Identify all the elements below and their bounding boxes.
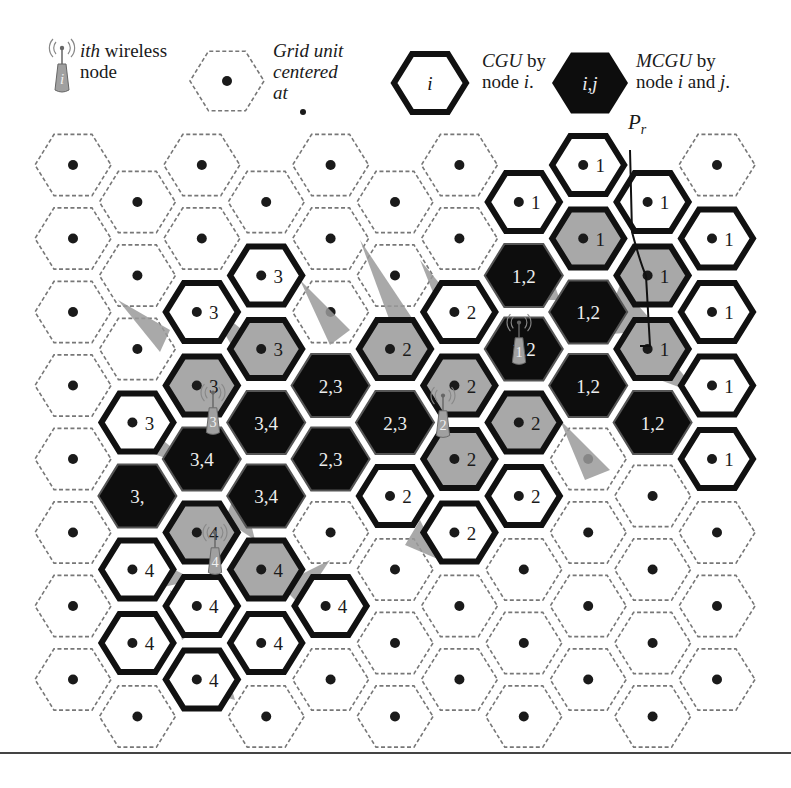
legend-node-label: ith wireless node — [80, 40, 167, 82]
legend-cgu-end: . — [529, 71, 534, 92]
mcgu-label: 1,2 — [576, 302, 600, 323]
grid-center-dot — [192, 307, 202, 317]
cgu-cell: 1 — [681, 357, 753, 415]
grid-center-dot — [132, 271, 142, 281]
mcgu-label: 3,4 — [254, 486, 278, 507]
grid-center-dot — [326, 234, 336, 244]
cgu-cell: 3 — [166, 283, 238, 341]
cgu-label: 1 — [724, 302, 734, 323]
cgu-cell: 4 — [230, 541, 302, 599]
mcgu-cell: 1,2 — [549, 354, 627, 417]
cgu-label: 1 — [724, 449, 734, 470]
legend-mcgu-text2: node — [636, 71, 678, 92]
node-id-label: 2 — [439, 417, 446, 433]
cgu-cell: 2 — [488, 394, 560, 452]
grid-unit — [679, 649, 755, 710]
grid-center-dot — [648, 638, 658, 648]
grid-center-dot — [261, 197, 271, 207]
pr-label-main: P — [628, 110, 641, 134]
legend-mcgu-glyph: i,j — [582, 73, 597, 94]
node-id-label: 1 — [515, 344, 522, 360]
grid-unit — [35, 649, 111, 710]
grid-center-dot — [583, 675, 593, 685]
grid-center-dot — [454, 601, 464, 611]
grid-center-dot — [514, 491, 524, 501]
cgu-label: 4 — [209, 670, 219, 691]
grid-unit — [357, 686, 433, 747]
cgu-label: 1 — [531, 192, 541, 213]
grid-unit — [550, 502, 626, 563]
mcgu-label: 2,3 — [383, 413, 407, 434]
grid-center-dot — [712, 528, 722, 538]
legend-mcgu-end: . — [725, 71, 730, 92]
legend-node-text: wireless — [100, 40, 167, 61]
cgu-label: 1 — [660, 192, 670, 213]
mcgu-cell: 2,3 — [356, 391, 434, 454]
legend-cgu-glyph: i — [427, 73, 432, 94]
grid-center-dot — [132, 712, 142, 722]
grid-center-dot — [68, 234, 78, 244]
grid-center-dot — [385, 344, 395, 354]
cgu-cell: 3 — [230, 247, 302, 305]
cgu-label: 4 — [145, 560, 155, 581]
node-id-label: 3 — [209, 414, 216, 430]
cgu-label: 2 — [402, 486, 412, 507]
cgu-cell: 1 — [681, 210, 753, 268]
pr-label-sub: r — [641, 122, 646, 137]
node-id-label: 4 — [211, 554, 218, 570]
cgu-label: 4 — [209, 596, 219, 617]
grid-center-dot — [454, 234, 464, 244]
legend-cgu-label: CGU by node i. — [482, 50, 546, 92]
grid-center-dot — [707, 234, 717, 244]
cgu-label: 1 — [724, 376, 734, 397]
legend-node-italic: ith — [80, 40, 100, 61]
grid-unit — [550, 575, 626, 636]
cgu-cell: 3 — [166, 357, 238, 415]
mcgu-cell: 3,4 — [163, 428, 241, 491]
grid-unit — [615, 612, 691, 673]
grid-unit — [679, 502, 755, 563]
grid-unit — [164, 208, 240, 269]
legend-grid-line2: centered — [273, 61, 338, 82]
grid-unit — [421, 134, 497, 195]
mcgu-cell: 1,2 — [614, 391, 692, 454]
cgu-cell: 1 — [552, 136, 624, 194]
cgu-cell: 1 — [552, 210, 624, 268]
node-id-label: i — [60, 71, 64, 87]
grid-center-dot — [326, 160, 336, 170]
grid-center-dot — [449, 307, 459, 317]
grid-unit — [164, 134, 240, 195]
mcgu-label: 2,3 — [319, 449, 343, 470]
grid-unit — [421, 208, 497, 269]
cgu-label: 3 — [273, 339, 283, 360]
cgu-label: 4 — [273, 633, 283, 654]
legend-cgu-text: by — [522, 50, 546, 71]
cgu-cell: 3 — [101, 394, 173, 452]
grid-center-dot — [707, 381, 717, 391]
grid-center-dot — [68, 675, 78, 685]
grid-center-dot — [132, 344, 142, 354]
grid-center-dot — [390, 565, 400, 575]
cgu-cell: 3 — [230, 320, 302, 378]
grid-center-dot — [390, 197, 400, 207]
cgu-cell: 2 — [423, 430, 495, 488]
legend-mcgu-italic: MCGU — [636, 50, 692, 71]
cgu-label: 1 — [595, 229, 605, 250]
cgu-label: 4 — [273, 560, 283, 581]
cgu-label: 1 — [660, 339, 670, 360]
cgu-label: 2 — [467, 376, 477, 397]
legend-mcgu-text: by — [692, 50, 716, 71]
wireless-node-icon: i — [49, 39, 74, 92]
grid-unit — [228, 171, 304, 232]
grid-center-dot — [519, 638, 529, 648]
mcgu-cell: 3,4 — [227, 391, 305, 454]
mcgu-cell: 2,3 — [292, 428, 370, 491]
grid-unit — [679, 134, 755, 195]
cgu-cell: 1 — [617, 247, 689, 305]
grid-unit — [35, 502, 111, 563]
cgu-cell: 2 — [488, 467, 560, 525]
grid-center-dot — [261, 712, 271, 722]
cgu-label: 1 — [660, 266, 670, 287]
grid-unit — [679, 575, 755, 636]
grid-unit — [550, 649, 626, 710]
